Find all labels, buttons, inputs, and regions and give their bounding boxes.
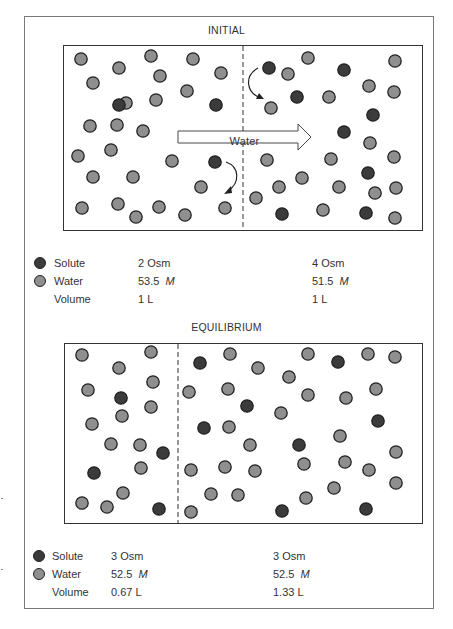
water-particle xyxy=(282,68,294,80)
equilibrium-left-water: 52.5 M xyxy=(111,566,148,582)
water-legend-icon xyxy=(33,568,45,580)
water-particle xyxy=(185,464,197,476)
solute-particle xyxy=(291,91,303,103)
water-particle xyxy=(86,418,98,430)
solute-particle xyxy=(209,156,221,168)
water-particle xyxy=(339,456,351,468)
water-particle xyxy=(296,172,308,184)
water-particle xyxy=(111,119,123,131)
water-particle xyxy=(72,150,84,162)
unit: M xyxy=(139,568,148,580)
water-particle xyxy=(145,50,157,62)
water-particle xyxy=(389,351,401,363)
water-particle xyxy=(390,446,402,458)
solute-particle xyxy=(157,447,169,459)
solute-particle xyxy=(367,109,379,121)
solute-particle xyxy=(276,208,288,220)
solute-legend-icon xyxy=(34,257,46,269)
water-particle xyxy=(116,410,128,422)
water-particle xyxy=(112,198,124,210)
water-particle xyxy=(364,137,376,149)
water-particle xyxy=(325,153,337,165)
solute-label: Solute xyxy=(52,548,83,564)
water-particle xyxy=(244,439,256,451)
water-particle xyxy=(275,407,287,419)
solute-particle xyxy=(115,392,127,404)
solute-particle xyxy=(210,99,222,111)
water-particle xyxy=(300,492,312,504)
solute-particle xyxy=(113,99,125,111)
water-particle xyxy=(113,62,125,74)
water-particle xyxy=(113,362,125,374)
water-particle xyxy=(82,384,94,396)
water-particle xyxy=(363,80,375,92)
water-arrow-label: Water xyxy=(178,135,311,147)
initial-left-water: 53.5 M xyxy=(138,273,175,289)
water-particle xyxy=(145,346,157,358)
water-particle xyxy=(219,461,231,473)
water-label: Water xyxy=(52,566,81,582)
volume-label: Volume xyxy=(54,291,91,307)
value: 51.5 xyxy=(312,275,333,287)
initial-right-water: 51.5 M xyxy=(312,273,349,289)
water-particle xyxy=(105,438,117,450)
water-particle xyxy=(340,392,352,404)
water-particle xyxy=(134,439,146,451)
water-particle xyxy=(334,430,346,442)
water-legend-icon xyxy=(34,275,46,287)
water-particle xyxy=(317,204,329,216)
water-particle xyxy=(181,85,193,97)
water-particle xyxy=(302,348,314,360)
water-particle xyxy=(150,94,162,106)
water-particle xyxy=(283,371,295,383)
water-particle xyxy=(75,53,87,65)
solute-particle xyxy=(194,357,206,369)
water-particle xyxy=(87,77,99,89)
solute-particle xyxy=(338,126,350,138)
water-particle xyxy=(84,120,96,132)
arrowhead-icon xyxy=(224,186,232,194)
water-particle xyxy=(166,155,178,167)
water-particle xyxy=(232,489,244,501)
water-particle xyxy=(185,506,197,518)
water-particle xyxy=(135,462,147,474)
water-particle xyxy=(388,86,400,98)
volume-label: Volume xyxy=(52,584,89,600)
solute-particle xyxy=(332,356,344,368)
water-particle xyxy=(153,201,165,213)
water-particle xyxy=(252,362,264,374)
water-particle xyxy=(179,209,191,221)
solute-particle xyxy=(88,467,100,479)
unit: M xyxy=(166,275,175,287)
water-particle xyxy=(249,465,261,477)
water-particle xyxy=(273,181,285,193)
unit: M xyxy=(301,568,310,580)
value: 53.5 xyxy=(138,275,159,287)
water-particle xyxy=(390,477,402,489)
solute-particle xyxy=(338,64,350,76)
water-particle xyxy=(76,202,88,214)
water-particle xyxy=(183,386,195,398)
initial-right-volume: 1 L xyxy=(312,291,327,307)
water-particle xyxy=(333,181,345,193)
water-particle xyxy=(195,181,207,193)
water-particle xyxy=(101,501,113,513)
equilibrium-right-solute: 3 Osm xyxy=(273,548,305,564)
solute-particle xyxy=(362,167,374,179)
water-particle xyxy=(265,102,277,114)
equilibrium-title: EQUILIBRIUM xyxy=(0,321,453,333)
equilibrium-left-solute: 3 Osm xyxy=(111,548,143,564)
water-particle xyxy=(222,383,234,395)
equilibrium-right-water: 52.5 M xyxy=(273,566,310,582)
water-particle xyxy=(369,187,381,199)
value: 52.5 xyxy=(273,568,294,580)
solute-particle xyxy=(263,62,275,74)
solute-particle xyxy=(360,503,372,515)
solute-particle xyxy=(276,505,288,517)
solute-particle xyxy=(241,400,253,412)
diagram-canvas xyxy=(0,0,453,629)
water-particle xyxy=(224,348,236,360)
equilibrium-particles xyxy=(76,346,402,518)
water-particle xyxy=(219,202,231,214)
water-particle xyxy=(87,171,99,183)
